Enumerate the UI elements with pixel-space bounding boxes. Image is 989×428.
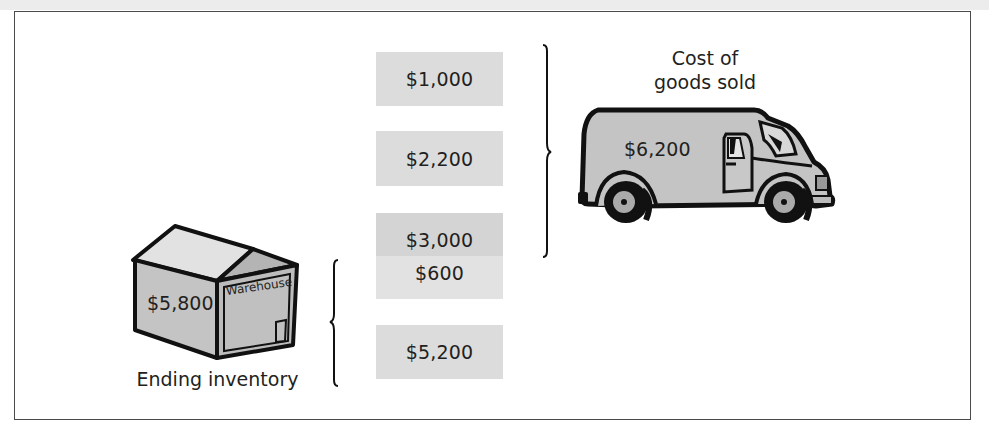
- cost-layer-amount: $3,000: [406, 229, 474, 251]
- delivery-van-icon: [576, 104, 838, 228]
- cost-layer-box-4: $600: [376, 256, 503, 299]
- cogs-label-line1: Cost of: [630, 46, 780, 70]
- cost-layer-amount: $5,200: [406, 341, 474, 363]
- warehouse-total: $5,800: [147, 292, 213, 314]
- cogs-label-line2: goods sold: [630, 70, 780, 94]
- cogs-label: Cost of goods sold: [630, 46, 780, 94]
- cost-layer-box-5: $5,200: [376, 325, 503, 379]
- cost-layer-box-2: $2,200: [376, 131, 503, 186]
- ending-inventory-label: Ending inventory: [130, 367, 305, 391]
- cost-layer-box-1: $1,000: [376, 52, 503, 106]
- cost-layer-amount: $600: [415, 262, 464, 284]
- cogs-total: $6,200: [624, 137, 724, 161]
- left-brace-icon: [324, 258, 344, 390]
- right-brace-icon: [538, 43, 558, 261]
- cost-layer-box-3: $3,000: [376, 213, 503, 256]
- cost-layer-amount: $2,200: [406, 148, 474, 170]
- top-strip: [0, 0, 989, 10]
- cost-layer-amount: $1,000: [406, 68, 474, 90]
